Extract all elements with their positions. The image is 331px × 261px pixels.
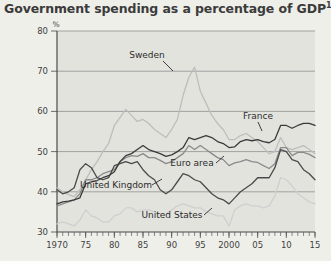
x-tick-2000: 2000 [218,240,240,250]
y-tick-30: 30 [37,227,48,237]
x-tick-05: 05 [252,240,263,250]
x-tick-10: 10 [281,240,292,250]
series-label-united-kingdom: United Kingdom [80,180,152,190]
x-tick-75: 75 [80,240,91,250]
x-tick-95: 95 [195,240,206,250]
y-tick-40: 40 [37,187,48,197]
series-label-united-states: United States [142,210,203,220]
x-axis-tick-labels: 197075808590952000051015 [46,240,320,250]
y-tick-80: 80 [37,26,48,36]
x-tick-80: 80 [109,240,120,250]
y-tick-50: 50 [37,147,48,157]
x-tick-85: 85 [138,240,149,250]
plot-area-background [57,31,315,232]
y-axis-ticks [51,31,57,232]
x-axis-minor-ticks [57,232,315,236]
series-label-euro-area: Euro area [170,158,213,168]
y-axis-unit: % [52,20,59,29]
x-axis-major-ticks [57,232,315,238]
x-tick-15: 15 [310,240,321,250]
series-label-france: France [243,111,273,121]
y-tick-60: 60 [37,106,48,116]
title-footnote-marker: 1 [326,1,331,10]
series-label-sweden: Sweden [129,50,165,60]
y-tick-70: 70 [37,66,48,76]
x-tick-90: 90 [166,240,177,250]
x-tick-1970: 1970 [46,240,68,250]
